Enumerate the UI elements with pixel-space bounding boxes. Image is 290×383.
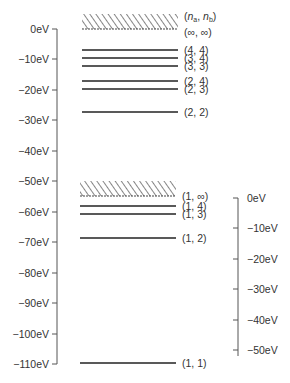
energy-level-diagram: 0eV−10eV−20eV−30eV−40eV−50eV−60eV−70eV−8…	[0, 0, 290, 383]
right-axis-tick-label: −40eV	[247, 314, 278, 326]
left-axis-tick-label: −20eV	[18, 84, 49, 96]
upper-continuum: (na, nb) (∞, ∞)	[82, 10, 216, 38]
left-axis-tick-label: −100eV	[13, 328, 50, 340]
left-axis-tick-label: −40eV	[18, 145, 49, 157]
left-axis-tick-label: −110eV	[13, 358, 49, 370]
left-axis-tick-label: −90eV	[18, 297, 49, 309]
right-axis-tick-label: 0eV	[247, 192, 266, 204]
continuum-label-na-nb: (na, nb)	[184, 10, 216, 23]
left-axis-tick-label: −30eV	[18, 114, 49, 126]
energy-level-label: (3, 3)	[184, 60, 209, 72]
energy-level-label: (2, 3)	[184, 83, 209, 95]
right-axis-tick-label: −30eV	[247, 283, 278, 295]
energy-level-label: (2, 2)	[184, 106, 209, 118]
left-axis-tick-label: −60eV	[18, 206, 49, 218]
energy-level-label: (1, 3)	[182, 208, 207, 220]
right-axis-tick-label: −10eV	[247, 222, 278, 234]
energy-level-label: (1, 2)	[182, 232, 207, 244]
left-axis-tick-label: −70eV	[18, 236, 49, 248]
continuum-label-inf-inf: (∞, ∞)	[184, 26, 212, 38]
right-axis-tick-label: −20eV	[247, 253, 278, 265]
left-axis-tick-label: 0eV	[30, 23, 49, 35]
left-axis-tick-label: −50eV	[18, 175, 49, 187]
left-axis-tick-label: −10eV	[18, 53, 49, 65]
energy-level-label: (1, 1)	[182, 357, 207, 369]
left-axis-tick-label: −80eV	[18, 267, 49, 279]
lower-continuum: (1, ∞)	[80, 181, 208, 202]
right-axis-tick-label: −50eV	[247, 344, 278, 356]
